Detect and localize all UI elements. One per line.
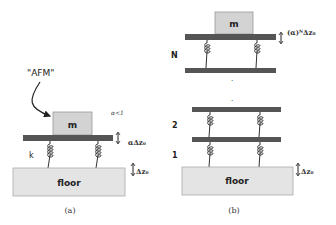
floor-displacement-label-b: Δz₀ [301,167,313,176]
condition-label: α<1 [111,109,124,116]
afm-callout-label: "AFM" [27,68,54,78]
callout-arrow-icon [32,82,50,116]
stage-label-1: 1 [172,151,178,160]
plate-2-top [192,107,281,112]
plate-a [23,135,113,141]
stage-label-2: 2 [172,121,178,130]
plate-displacement-label-a: αΔz₀ [128,138,146,147]
mass-label-a: m [68,120,77,130]
spring-icon [205,40,260,68]
caption-b: (b) [228,206,239,215]
plate-n-top [185,34,276,40]
ellipsis-dot: . [231,95,233,103]
mass-label-b: m [229,19,238,29]
panel-b: m (α)ᴺΔz₀ N . . 2 1 [171,12,316,215]
caption-a: (a) [64,206,75,215]
plate-n-bottom [185,68,276,73]
ellipsis-dot: . [231,75,233,83]
floor-label-a: floor [57,178,81,188]
spring-icon [208,142,263,167]
spring-icon [208,112,263,137]
stage-label-n: N [171,51,178,60]
floor-displacement-label-a: Δz₀ [136,167,148,176]
top-displacement-label: (α)ᴺΔz₀ [287,28,316,37]
diagram-canvas: "AFM" m α<1 αΔz₀ k floor Δz₀ (a) m [0,0,336,225]
spring-icon [48,141,101,168]
panel-a: "AFM" m α<1 αΔz₀ k floor Δz₀ (a) [13,68,148,215]
plate-1-top [192,137,281,142]
floor-label-b: floor [225,176,249,186]
spring-constant-label: k [29,151,34,160]
